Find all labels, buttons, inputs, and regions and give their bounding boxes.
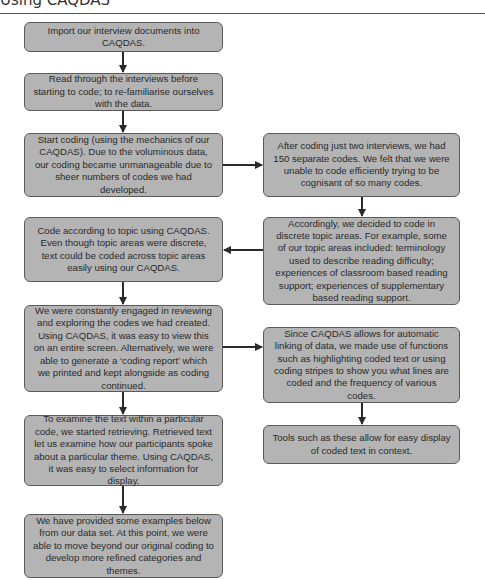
note-display-tools: Tools such as these allow for easy displ… bbox=[263, 425, 460, 464]
note-150-codes: After coding just two interviews, we had… bbox=[263, 133, 460, 197]
step-retrieve-text: To examine the text within a particular … bbox=[24, 415, 223, 486]
step-review-codes: We were constantly engaged in reviewing … bbox=[24, 305, 223, 392]
page-header: Using CAQDAS bbox=[0, 0, 110, 9]
note-automatic-linking: Since CAQDAS allows for automatic linkin… bbox=[263, 327, 460, 403]
note-discrete-topic-areas: Accordingly, we decided to code in discr… bbox=[263, 217, 460, 305]
step-import-documents: Import our interview documents into CAQD… bbox=[24, 22, 223, 52]
header-divider bbox=[0, 13, 485, 14]
step-read-interviews: Read through the interviews before start… bbox=[24, 73, 223, 111]
step-examples: We have provided some examples below fro… bbox=[24, 514, 223, 578]
step-code-by-topic: Code according to topic using CAQDAS. Ev… bbox=[24, 217, 223, 282]
step-start-coding: Start coding (using the mechanics of our… bbox=[24, 133, 223, 197]
